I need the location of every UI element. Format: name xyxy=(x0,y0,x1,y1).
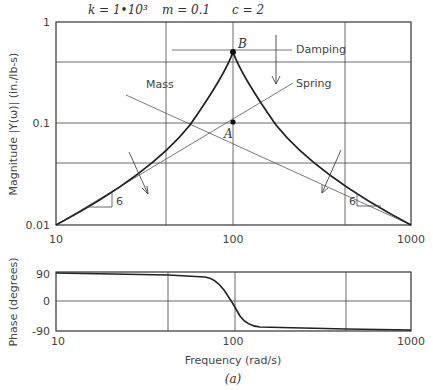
label-B: B xyxy=(237,37,247,51)
bode-figure: k = 1•10³ m = 0.1 c = 2 6 6 xyxy=(0,0,433,390)
magnitude-y-label: Magnitude |Y(ω)| (in./lb-s) xyxy=(7,53,20,196)
x-tick-10-top: 10 xyxy=(49,233,63,246)
x-axis-label: Frequency (rad/s) xyxy=(185,354,282,367)
param-c: c = 2 xyxy=(232,3,264,17)
x-tick-100-top: 100 xyxy=(223,233,244,246)
phase-tick-90: 90 xyxy=(36,268,50,281)
phase-tick-0: 0 xyxy=(43,295,50,308)
param-m: m = 0.1 xyxy=(162,3,210,17)
phase-y-label: Phase (degrees) xyxy=(7,257,20,346)
x-tick-100: 100 xyxy=(223,335,244,348)
phase-plot xyxy=(56,272,411,331)
param-k: k = 1•10³ xyxy=(88,3,148,17)
x-tick-10: 10 xyxy=(51,335,65,348)
phase-tick-neg90: -90 xyxy=(32,325,50,338)
spring-line xyxy=(56,83,293,225)
point-A xyxy=(230,119,235,124)
label-A: A xyxy=(223,127,233,141)
figure-caption: (a) xyxy=(225,372,242,386)
y-tick-1: 1 xyxy=(43,16,50,29)
magnitude-curve xyxy=(56,52,411,225)
label-mass: Mass xyxy=(146,78,174,91)
phase-curve xyxy=(56,273,411,330)
point-B xyxy=(230,49,236,55)
x-tick-1000: 1000 xyxy=(397,335,425,348)
slope-label-right: 6 xyxy=(349,195,356,208)
slope-label-left: 6 xyxy=(116,195,123,208)
y-tick-0.1: 0.1 xyxy=(33,117,51,130)
label-damping: Damping xyxy=(296,43,346,56)
y-tick-0.01: 0.01 xyxy=(26,219,51,232)
magnitude-plot: 6 6 B A Damping Spring Mass xyxy=(56,22,411,225)
label-spring: Spring xyxy=(296,77,332,90)
x-tick-1000-top: 1000 xyxy=(397,233,425,246)
